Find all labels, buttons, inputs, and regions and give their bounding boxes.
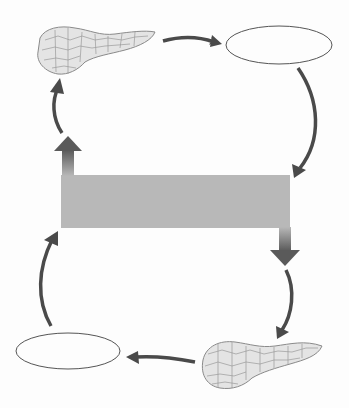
up-block-arrow bbox=[54, 136, 82, 176]
arrow-ellipse-to-bar bbox=[298, 68, 316, 168]
arrow-to-top-pancreas bbox=[54, 88, 62, 133]
arrow-pancreas-to-ellipse bbox=[163, 37, 214, 42]
bottom-left-label-ellipse bbox=[16, 333, 120, 369]
down-block-arrow bbox=[270, 227, 300, 266]
top-right-label-ellipse bbox=[226, 26, 332, 64]
arrow-ellipse-to-bar-left bbox=[41, 240, 52, 326]
feedback-loop-diagram bbox=[0, 0, 349, 408]
arrow-pancreas-to-bottom-ellipse bbox=[135, 357, 195, 362]
center-bar bbox=[61, 175, 290, 228]
arrow-to-bottom-pancreas bbox=[282, 270, 292, 330]
pancreas-bottom-illustration bbox=[202, 342, 322, 389]
pancreas-top-illustration bbox=[38, 27, 155, 74]
